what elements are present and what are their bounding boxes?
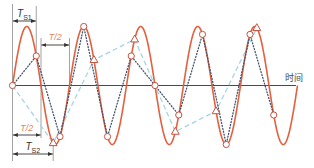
sampling-aliasing-chart: 时间 TS1 T/2 T/2 TS2: [0, 0, 314, 168]
sample-circle-marker: [271, 112, 277, 118]
sample-circle-marker: [57, 133, 63, 139]
half-period-label-top: T/2: [49, 32, 62, 42]
sampling-figure: 时间 TS1 T/2 T/2 TS2: [0, 0, 314, 168]
sample-circle-marker: [128, 53, 134, 59]
sample-circle-marker: [81, 23, 87, 29]
ts2-label-sub: S2: [32, 147, 41, 154]
sample-circle-marker: [9, 82, 15, 88]
sample-circle-marker: [33, 53, 39, 59]
ts1-label-sub: S1: [23, 14, 32, 21]
ts1-period-label: TS1: [17, 8, 32, 21]
sample-triangle-marker: [131, 35, 139, 42]
ts2-period-label: TS2: [26, 141, 41, 154]
sample-circle-marker: [199, 31, 205, 37]
sample-circle-marker: [152, 82, 158, 88]
half-period-label-bottom: T/2: [20, 123, 33, 133]
sample-circle-marker: [247, 31, 253, 37]
sample-circle-marker: [223, 141, 229, 147]
sample-circle-marker: [104, 133, 110, 139]
sample-circle-marker: [176, 112, 182, 118]
time-axis-label: 时间: [285, 72, 303, 83]
